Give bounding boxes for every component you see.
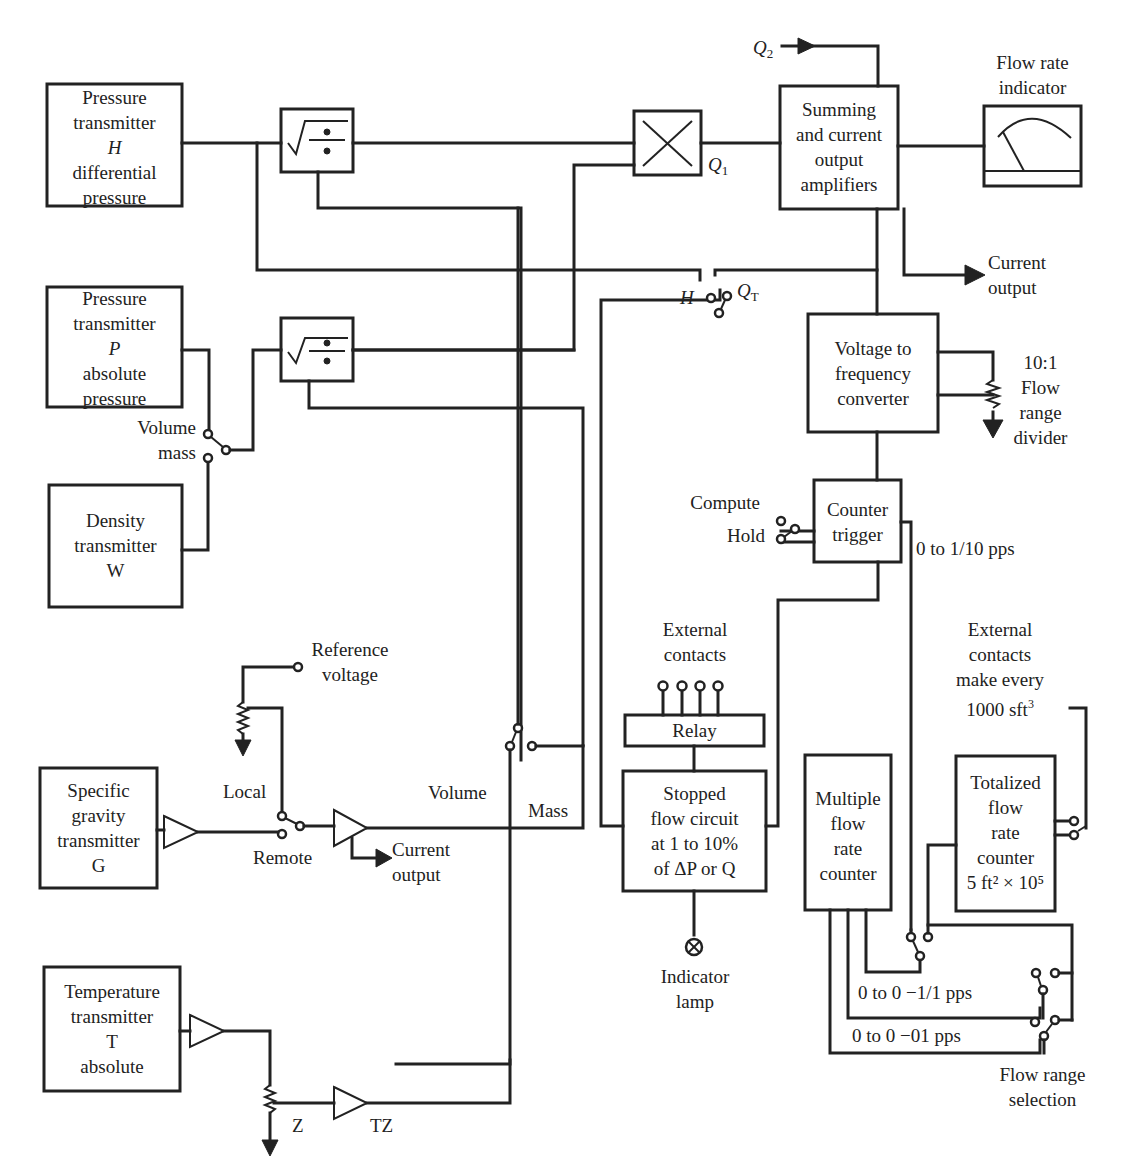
voltage-to-frequency-label: Voltage to frequency converter xyxy=(808,336,938,411)
flow-range-divider-label: 10:1 Flow range divider xyxy=(1008,350,1073,450)
compute-label: Compute xyxy=(660,490,760,515)
volume-mass-switch-label: Volume mass xyxy=(110,415,196,465)
temperature-transmitter-label: Temperature transmitter T absolute xyxy=(44,979,180,1079)
multiplier-block xyxy=(634,111,701,175)
totalized-flow-counter-label: Totalized flow rate counter 5 ft² × 10⁵ xyxy=(956,770,1055,895)
flow-rate-indicator-meter xyxy=(984,106,1081,186)
q1-label: Q1 xyxy=(708,152,728,183)
hold-label: Hold xyxy=(690,523,765,548)
q2-label: Q2 xyxy=(753,35,773,66)
counter-trigger-label: Counter trigger xyxy=(814,497,901,547)
qt-label: QT xyxy=(737,278,759,309)
external-contacts-terminals xyxy=(659,682,723,716)
external-contacts-right-label: External contacts make every 1000 sft3 xyxy=(940,617,1060,722)
density-transmitter-label: Density transmitter W xyxy=(49,508,182,583)
volume-label: Volume xyxy=(428,780,487,805)
temperature-amplifier-icon xyxy=(190,1015,224,1047)
h-switch-label: H xyxy=(680,285,694,310)
tz-label: TZ xyxy=(370,1113,393,1138)
tz-amplifier-icon xyxy=(334,1087,367,1119)
flow-rate-indicator-label: Flow rate indicator xyxy=(980,50,1085,100)
pps-top-label: 0 to 1/10 pps xyxy=(916,536,1015,561)
sqrt-divide-block-2 xyxy=(281,318,353,381)
pressure-h-transmitter-label: Pressure transmitter H differential pres… xyxy=(47,85,182,210)
indicator-lamp-label: Indicator lamp xyxy=(640,964,750,1014)
reference-voltage-label: Reference voltage xyxy=(300,637,400,687)
pressure-p-transmitter-label: Pressure transmitter P absolute pressure xyxy=(47,286,182,411)
remote-label: Remote xyxy=(253,845,312,870)
local-label: Local xyxy=(223,779,266,804)
multiple-flow-rate-counter-label: Multiple flow rate counter xyxy=(805,786,891,886)
flow-range-selection-label: Flow range selection xyxy=(985,1062,1100,1112)
pps-low-label: 0 to 0 −01 pps xyxy=(852,1023,961,1048)
indicator-lamp-icon xyxy=(686,939,702,955)
relay-label: Relay xyxy=(625,718,764,743)
external-contacts-left-label: External contacts xyxy=(640,617,750,667)
sg-amplifier-icon xyxy=(164,816,198,848)
current-output-top-label: Current output xyxy=(988,250,1046,300)
mass-label: Mass xyxy=(528,798,568,823)
current-output-mid-label: Current output xyxy=(392,837,450,887)
stopped-flow-circuit-label: Stopped flow circuit at 1 to 10% of ΔP o… xyxy=(623,781,766,881)
z-label: Z xyxy=(292,1113,304,1138)
summing-amplifier-label: Summing and current output amplifiers xyxy=(780,97,898,197)
pps-mid-label: 0 to 0 −1/1 pps xyxy=(858,980,972,1005)
sqrt-divide-block-1 xyxy=(281,109,353,172)
specific-gravity-transmitter-label: Specific gravity transmitter G xyxy=(40,778,157,878)
